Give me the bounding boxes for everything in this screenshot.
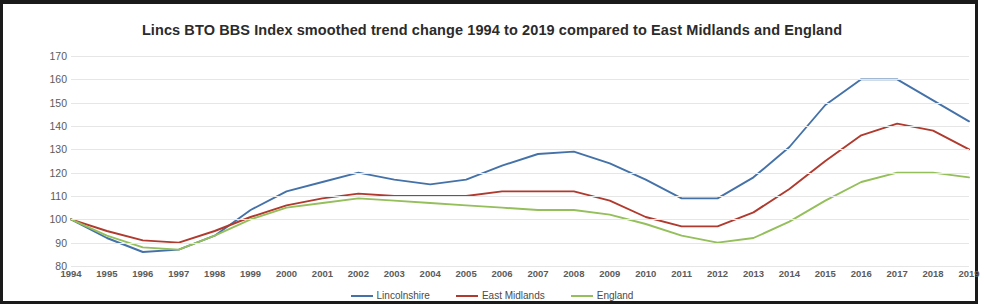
x-tick-label: 2005 [446,268,486,279]
x-tick-label: 1995 [87,268,127,279]
x-tick-label: 2003 [374,268,414,279]
chart-legend: LincolnshireEast MidlandsEngland [3,290,981,301]
y-tick-label: 160 [33,73,67,85]
x-tick-label: 2018 [913,268,953,279]
x-tick-label: 2015 [805,268,845,279]
y-gridline [71,266,969,267]
y-tick-label: 120 [33,167,67,179]
x-tick-label: 2008 [554,268,594,279]
series-lines [71,56,969,266]
x-tick-label: 2017 [877,268,917,279]
plot-area [71,56,969,266]
x-tick-label: 2010 [626,268,666,279]
x-tick-label: 1996 [123,268,163,279]
x-tick-label: 2013 [733,268,773,279]
y-tick-label: 110 [33,190,67,202]
legend-label: England [597,290,634,301]
y-gridline [71,219,969,220]
x-tick-label: 2004 [410,268,450,279]
legend-item[interactable]: Lincolnshire [351,290,430,301]
x-tick-label: 2007 [518,268,558,279]
y-gridline [71,103,969,104]
series-line [71,124,969,243]
y-tick-label: 150 [33,97,67,109]
legend-line-icon [456,295,478,297]
x-tick-label: 2009 [590,268,630,279]
legend-label: East Midlands [482,290,545,301]
y-gridline [71,196,969,197]
x-tick-label: 2001 [302,268,342,279]
x-tick-label: 2006 [482,268,522,279]
y-gridline [71,56,969,57]
x-tick-label: 2019 [949,268,984,279]
y-tick-label: 130 [33,143,67,155]
y-tick-label: 100 [33,213,67,225]
series-line [71,173,969,250]
x-tick-label: 2016 [841,268,881,279]
x-tick-label: 1997 [159,268,199,279]
legend-label: Lincolnshire [377,290,430,301]
y-gridline [71,243,969,244]
y-gridline [71,126,969,127]
y-tick-label: 140 [33,120,67,132]
y-gridline [71,79,969,80]
y-gridline [71,149,969,150]
x-tick-label: 2000 [267,268,307,279]
x-tick-label: 2014 [769,268,809,279]
legend-item[interactable]: England [571,290,634,301]
x-tick-label: 2012 [698,268,738,279]
y-gridline [71,173,969,174]
y-axis-tick-labels: 8090100110120130140150160170 [27,56,67,266]
x-axis-tick-labels: 1994199519961997199819992000200120022003… [71,268,969,284]
y-tick-label: 170 [33,50,67,62]
x-tick-label: 1999 [231,268,271,279]
legend-line-icon [571,295,593,297]
chart-title: Lincs BTO BBS Index smoothed trend chang… [3,22,981,38]
legend-line-icon [351,295,373,297]
x-tick-label: 1998 [195,268,235,279]
series-line [71,79,969,252]
legend-item[interactable]: East Midlands [456,290,545,301]
x-tick-label: 1994 [51,268,91,279]
x-tick-label: 2002 [338,268,378,279]
y-tick-label: 90 [33,237,67,249]
x-tick-label: 2011 [662,268,702,279]
